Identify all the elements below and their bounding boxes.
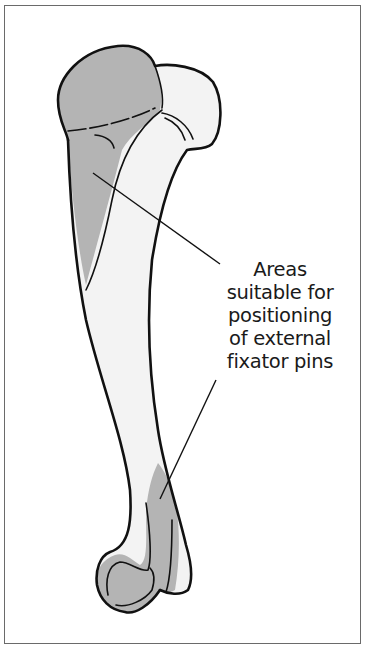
leader-line-distal bbox=[160, 380, 216, 499]
label-line-3: positioning bbox=[214, 304, 346, 327]
label-line-5: fixator pins bbox=[214, 350, 346, 373]
label-line-1: Areas bbox=[214, 258, 346, 281]
label-line-4: of external bbox=[214, 327, 346, 350]
label-line-2: suitable for bbox=[214, 281, 346, 304]
annotation-label: Areas suitable for positioning of extern… bbox=[214, 258, 346, 373]
